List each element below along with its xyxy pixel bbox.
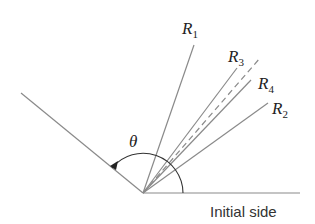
ray-r2	[143, 103, 268, 193]
ray-r4	[143, 80, 251, 193]
ray-r3	[143, 68, 237, 193]
ray-dashed-limit	[143, 58, 260, 193]
angle-diagram: θ R1 R3 R4 R2 Initial side	[0, 0, 315, 224]
arrowhead-icon	[110, 161, 118, 170]
initial-side-label: Initial side	[210, 203, 277, 220]
ray-r1	[143, 45, 194, 193]
terminal-side-line	[21, 93, 143, 193]
theta-label: θ	[129, 132, 137, 151]
label-r4: R4	[257, 74, 274, 95]
label-r2: R2	[271, 99, 288, 120]
label-r1: R1	[181, 19, 198, 40]
label-r3: R3	[227, 47, 244, 68]
